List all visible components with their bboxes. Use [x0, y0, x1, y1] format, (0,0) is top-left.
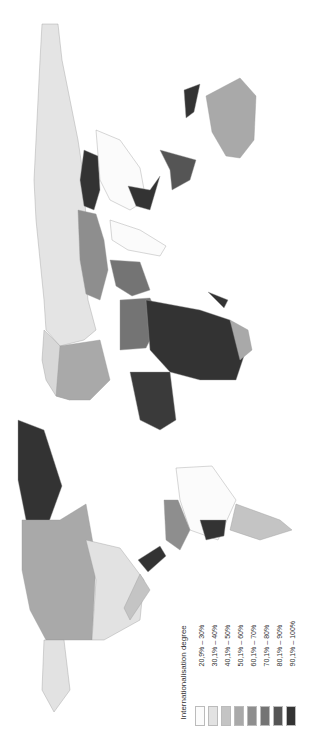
legend-swatch [208, 706, 218, 726]
legend: Internationalisation degree 20,9% – 30% … [172, 604, 292, 732]
legend-item: 60,1% – 70% [246, 604, 259, 732]
legend-label: 50,1% – 60% [237, 609, 244, 667]
legend-label: 90,1% – 100% [289, 609, 296, 667]
region-europe-west [56, 340, 110, 400]
legend-swatch [234, 706, 244, 726]
region-canada [22, 504, 96, 640]
legend-label: 30,1% – 40% [211, 609, 218, 667]
legend-item: 50,1% – 60% [233, 604, 246, 732]
region-africa-central [146, 300, 246, 380]
legend-item: 70,1% – 80% [259, 604, 272, 732]
legend-item: 80,1% – 90% [272, 604, 285, 732]
legend-swatch [247, 706, 257, 726]
region-middle-east [110, 260, 150, 296]
region-australia [206, 78, 256, 158]
region-argentina [230, 504, 292, 540]
legend-item: 90,1% – 100% [285, 604, 298, 732]
legend-swatch [195, 706, 205, 726]
region-south-america-dark [200, 520, 226, 540]
legend-label: 70,1% – 80% [263, 609, 270, 667]
legend-swatch [260, 706, 270, 726]
region-greenland [18, 420, 62, 530]
region-africa-south [130, 372, 176, 430]
legend-item: 20,9% – 30% [194, 604, 207, 732]
legend-label: 40,1% – 50% [224, 609, 231, 667]
region-indonesia [160, 150, 196, 190]
legend-item: 40,1% – 50% [220, 604, 233, 732]
legend-title: Internationalisation degree [179, 610, 188, 720]
legend-label: 20,9% – 30% [198, 609, 205, 667]
region-alaska [42, 640, 70, 712]
region-japan [184, 84, 200, 118]
legend-item: 30,1% – 40% [207, 604, 220, 732]
legend-swatch [286, 706, 296, 726]
region-india [110, 220, 166, 256]
legend-swatch [273, 706, 283, 726]
region-madagascar [208, 292, 228, 308]
region-central-america [138, 546, 166, 572]
legend-swatch [221, 706, 231, 726]
legend-label: 80,1% – 90% [276, 609, 283, 667]
legend-label: 60,1% – 70% [250, 609, 257, 667]
